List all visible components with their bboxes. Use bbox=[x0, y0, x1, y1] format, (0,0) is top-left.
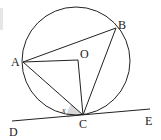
segment-ao bbox=[23, 60, 78, 62]
segment-ab bbox=[23, 28, 116, 62]
segment-oc bbox=[78, 60, 83, 115]
label-o: O bbox=[80, 47, 89, 61]
geometry-diagram: A B O C D E x bbox=[0, 0, 161, 140]
label-b: B bbox=[118, 18, 126, 32]
label-angle-x: x bbox=[61, 106, 66, 115]
label-e: E bbox=[145, 114, 152, 128]
label-d: D bbox=[9, 125, 18, 139]
segment-ac bbox=[23, 62, 83, 115]
edge-artifact bbox=[0, 8, 3, 30]
label-a: A bbox=[11, 55, 20, 69]
label-c: C bbox=[79, 117, 87, 131]
